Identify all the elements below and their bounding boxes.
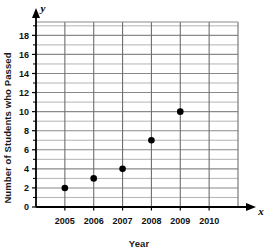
x-tick-label: 2009 [170,216,190,226]
x-tick-label: 2005 [55,216,75,226]
y-tick-label: 6 [24,145,29,155]
data-point [62,185,69,192]
y-axis-variable-label: y [39,2,46,14]
y-tick-label: 14 [19,69,29,79]
data-point [177,108,184,115]
x-tick-label: 2007 [113,216,133,226]
y-tick-label: 18 [19,31,29,41]
y-tick-label: 4 [24,164,29,174]
y-tick-label: 10 [19,107,29,117]
y-tick-label: 0 [24,202,29,212]
x-tick-label: 2008 [141,216,161,226]
x-tick-label: 2006 [84,216,104,226]
x-axis-title: Year [129,238,150,249]
y-tick-label: 12 [19,88,29,98]
data-point [90,175,97,182]
chart-background [0,0,269,251]
y-tick-label: 16 [19,50,29,60]
chart-canvas: 024681012141618 200520062007200820092010… [0,0,269,251]
scatter-plot-chart: 024681012141618 200520062007200820092010… [0,0,269,251]
y-axis-title: Number of Students who Passed [2,52,13,203]
x-axis-variable-label: x [257,205,264,217]
y-tick-label: 2 [24,183,29,193]
data-point [148,137,155,144]
x-tick-label: 2010 [199,216,219,226]
y-tick-label: 8 [24,126,29,136]
data-point [119,166,126,173]
